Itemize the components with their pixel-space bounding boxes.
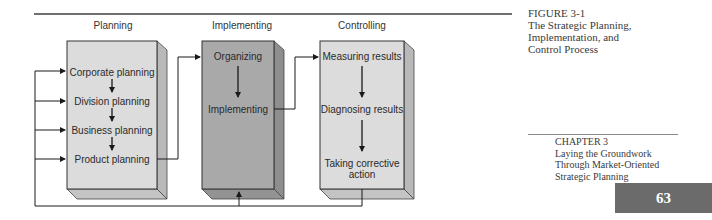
node-implementing: Implementing <box>202 104 274 115</box>
chapter-label: CHAPTER 3 <box>555 136 710 148</box>
node-organizing: Organizing <box>202 51 274 62</box>
implementing-box <box>202 41 284 199</box>
node-measuring-results: Measuring results <box>320 51 404 62</box>
node-diagnosing-results: Diagnosing results <box>320 104 404 115</box>
node-division-planning: Division planning <box>67 96 157 107</box>
figure-title-line2: Implementation, and <box>528 31 708 43</box>
page-number: 63 <box>615 183 712 213</box>
chapter-rule <box>528 134 678 135</box>
node-taking-corrective-line2: action <box>320 169 404 180</box>
chapter-title-line1: Laying the Groundwork <box>555 148 710 160</box>
planning-box <box>67 41 167 199</box>
figure-label: FIGURE 3-1 <box>528 7 708 19</box>
node-taking-corrective-action: Taking corrective action <box>320 158 404 180</box>
node-corporate-planning: Corporate planning <box>67 67 157 78</box>
node-product-planning: Product planning <box>67 154 157 165</box>
figure-title-line3: Control Process <box>528 43 708 55</box>
chapter-info: CHAPTER 3 Laying the Groundwork Through … <box>555 136 710 182</box>
chapter-title-line2: Through Market-Oriented <box>555 159 710 171</box>
figure-caption: FIGURE 3-1 The Strategic Planning, Imple… <box>528 7 708 55</box>
node-taking-corrective-line1: Taking corrective <box>320 158 404 169</box>
chapter-title-line3: Strategic Planning <box>555 171 710 183</box>
node-business-planning: Business planning <box>67 125 157 136</box>
figure-title-line1: The Strategic Planning, <box>528 19 708 31</box>
